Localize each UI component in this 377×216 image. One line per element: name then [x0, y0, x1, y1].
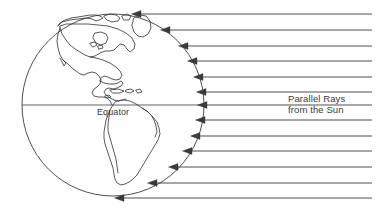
andes-coast-detail: [108, 110, 118, 173]
us-east-coast-outline: [90, 57, 122, 81]
caribbean-island-2: [126, 89, 134, 93]
ray-line: [179, 43, 373, 50]
ray-line: [115, 195, 373, 202]
ray-line: [191, 133, 373, 140]
ray-line: [161, 27, 373, 34]
parallel-rays-label: Parallel Raysfrom the Sun: [288, 94, 345, 115]
sun-rays-earth-diagram: Parallel Raysfrom the Sun Equator: [0, 0, 377, 216]
brazil-coast-detail: [142, 108, 157, 137]
canada-outline: [60, 24, 135, 57]
ray-line: [194, 74, 373, 81]
continent-outlines: [57, 14, 160, 185]
caribbean-island-3: [136, 89, 142, 93]
ray-line: [188, 58, 373, 65]
ray-line: [169, 164, 373, 171]
equator-label: Equator: [97, 107, 129, 117]
ray-line: [148, 180, 373, 187]
ray-line: [198, 102, 373, 109]
ray-line: [132, 11, 373, 18]
arctic-islands-outline: [104, 14, 120, 22]
great-lakes-mark-1: [90, 42, 97, 47]
ray-line: [183, 148, 373, 155]
parallel-rays-label-line-2: from the Sun: [288, 104, 344, 115]
parallel-rays-label-line-1: Parallel Rays: [288, 93, 345, 104]
caribbean-island-1: [110, 89, 124, 93]
ray-line: [197, 89, 373, 96]
ray-line: [196, 117, 373, 124]
great-lakes-mark-2: [98, 45, 103, 49]
